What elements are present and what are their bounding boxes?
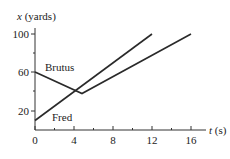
x-ticks bbox=[35, 126, 191, 130]
fred-label: Fred bbox=[52, 111, 73, 123]
fred-line bbox=[35, 34, 152, 121]
x-tick-12: 12 bbox=[147, 134, 158, 146]
y-tick-60: 60 bbox=[18, 66, 30, 78]
y-axis-label: x (yards) bbox=[16, 10, 56, 23]
x-axis-label: t (s) bbox=[209, 124, 227, 137]
x-tick-8: 8 bbox=[110, 134, 116, 146]
x-tick-4: 4 bbox=[71, 134, 77, 146]
x-tick-0: 0 bbox=[32, 134, 38, 146]
x-tick-16: 16 bbox=[186, 134, 198, 146]
position-time-chart: 100 60 20 0 4 8 12 16 x (yards) t (s) Br… bbox=[0, 0, 230, 159]
brutus-label: Brutus bbox=[45, 61, 74, 73]
y-tick-20: 20 bbox=[18, 105, 30, 117]
y-tick-100: 100 bbox=[13, 28, 30, 40]
y-ticks bbox=[31, 34, 35, 111]
y-tick-labels: 100 60 20 bbox=[13, 28, 30, 117]
x-tick-labels: 0 4 8 12 16 bbox=[32, 134, 197, 146]
